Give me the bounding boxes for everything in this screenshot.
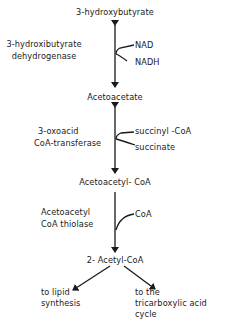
cofactor-nadh: NADH bbox=[135, 57, 160, 68]
output-lipid-line1: to lipid bbox=[41, 287, 70, 298]
arrow-to-lipid bbox=[73, 266, 110, 290]
cofactor-curve-succinate bbox=[116, 139, 135, 145]
cofactor-succinyl-coa: succinyl -CoA bbox=[135, 126, 191, 137]
output-tca-line1: to the bbox=[135, 287, 160, 298]
cofactor-curve-coa bbox=[116, 214, 134, 230]
enzyme-dehydrogenase-line1: 3-hydroxibutyrate bbox=[0, 39, 88, 50]
output-lipid-line2: synthesis bbox=[41, 298, 80, 309]
cofactor-curve-nadh bbox=[116, 54, 127, 61]
enzyme-thiolase-line2: CoA thiolase bbox=[41, 219, 93, 230]
cofactor-succinate: succinate bbox=[135, 142, 175, 153]
enzyme-thiolase-line1: Acetoacetyl bbox=[41, 207, 90, 218]
node-3-hydroxybutyrate: 3-hydroxybutyrate bbox=[60, 7, 170, 18]
cofactor-curve-succinyl bbox=[116, 132, 134, 139]
node-acetoacetyl-coa: Acetoacetyl- CoA bbox=[60, 177, 170, 188]
output-tca-line3: cycle bbox=[135, 309, 157, 320]
node-2-acetyl-coa: 2- Acetyl-CoA bbox=[60, 255, 170, 266]
enzyme-transferase-line2: CoA-transferase bbox=[34, 138, 101, 149]
output-tca-line2: tricarboxylic acid bbox=[135, 298, 207, 309]
enzyme-transferase-line1: 3-oxoacid bbox=[26, 126, 96, 137]
arrow-to-tca bbox=[124, 266, 155, 289]
enzyme-dehydrogenase-line2: dehydrogenase bbox=[0, 51, 88, 62]
cofactor-coa: CoA bbox=[135, 209, 152, 220]
cofactor-curve-nad bbox=[116, 45, 134, 54]
cofactor-nad: NAD bbox=[135, 40, 153, 51]
node-acetoacetate: Acetoacetate bbox=[60, 92, 170, 103]
